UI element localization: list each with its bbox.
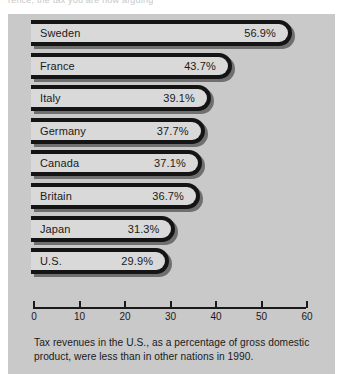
x-axis-tick-label: 10 — [74, 311, 85, 322]
bar-body: Canada37.1% — [31, 150, 202, 176]
x-axis-tick — [79, 301, 81, 308]
chart-panel: Sweden56.9%France43.7%Italy39.1%Germany3… — [8, 14, 335, 374]
x-axis-tick-label: 30 — [165, 311, 176, 322]
bar-value-label: 29.9% — [121, 255, 153, 267]
bar-row[interactable]: Germany37.7% — [31, 118, 205, 144]
bar-body: Italy39.1% — [31, 85, 211, 111]
bar-category-label: Japan — [40, 223, 70, 235]
x-axis-tick-label: 50 — [256, 311, 267, 322]
x-axis-tick — [170, 301, 172, 308]
x-axis-tick — [124, 301, 126, 308]
bar-row[interactable]: Italy39.1% — [31, 85, 211, 111]
bar-category-label: Italy — [40, 92, 61, 104]
x-axis: 0102030405060 — [8, 299, 335, 331]
bar-row[interactable]: Britain36.7% — [31, 183, 200, 209]
x-axis-tick — [215, 301, 217, 308]
bar-body: Britain36.7% — [31, 183, 200, 209]
x-axis-tick — [33, 301, 35, 308]
bar-category-label: Canada — [40, 157, 79, 169]
bar-body: U.S.29.9% — [31, 248, 169, 274]
bar-body: Germany37.7% — [31, 118, 205, 144]
x-axis-tick-label: 40 — [210, 311, 221, 322]
bar-category-label: Britain — [40, 190, 72, 202]
bar-body: Sweden56.9% — [31, 20, 292, 46]
bar-value-label: 56.9% — [244, 27, 276, 39]
x-axis-tick — [306, 301, 308, 308]
bar-value-label: 39.1% — [163, 92, 195, 104]
bar-row[interactable]: France43.7% — [31, 53, 232, 79]
bar-row[interactable]: Canada37.1% — [31, 150, 202, 176]
x-axis-tick-label: 60 — [301, 311, 312, 322]
x-axis-tick-label: 0 — [31, 311, 37, 322]
bar-row[interactable]: Japan31.3% — [31, 216, 175, 242]
bar-body: Japan31.3% — [31, 216, 175, 242]
bar-row[interactable]: U.S.29.9% — [31, 248, 169, 274]
bar-category-label: U.S. — [40, 255, 62, 267]
bar-body: France43.7% — [31, 53, 232, 79]
bar-value-label: 43.7% — [184, 60, 216, 72]
clipped-text-fragment: rence, the tax you are now arguing — [8, 0, 308, 7]
bar-value-label: 31.3% — [128, 223, 160, 235]
bar-row[interactable]: Sweden56.9% — [31, 20, 292, 46]
bar-value-label: 36.7% — [152, 190, 184, 202]
bar-category-label: Germany — [40, 125, 86, 137]
x-axis-tick-label: 20 — [119, 311, 130, 322]
bar-value-label: 37.7% — [157, 125, 189, 137]
bar-value-label: 37.1% — [154, 157, 186, 169]
chart-caption: Tax revenues in the U.S., as a percentag… — [34, 336, 312, 364]
bar-chart-plot-area: Sweden56.9%France43.7%Italy39.1%Germany3… — [8, 14, 335, 299]
bar-category-label: France — [40, 60, 75, 72]
bar-category-label: Sweden — [40, 27, 80, 39]
x-axis-tick — [261, 301, 263, 308]
